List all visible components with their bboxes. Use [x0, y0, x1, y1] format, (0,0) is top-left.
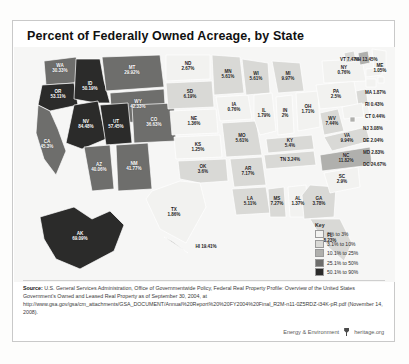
state-label-oh: OH1.71% [302, 105, 315, 114]
state-label-ak: AK69.09% [72, 232, 87, 241]
state-label-va: VA9.94% [341, 134, 354, 143]
legend-item: 25.1% to 50% [315, 259, 389, 267]
footer-brand-label[interactable]: heritage.org [354, 329, 384, 335]
state-label-nm: NM41.77% [126, 162, 141, 171]
state-value: 9.94% [341, 139, 354, 144]
state-value: 3.24% [286, 157, 300, 162]
legend-swatch [315, 268, 324, 276]
state-label-ny: NY0.76% [338, 66, 351, 75]
state-label-wa: WA30.33% [52, 64, 67, 73]
state-ct[interactable] [366, 79, 376, 87]
choropleth-map: WA30.33%OR53.11%ID50.19%MT29.92%WY42.33%… [14, 47, 395, 282]
state-label-wy: WY42.33% [130, 100, 145, 109]
state-label-ok: OK3.6% [198, 165, 208, 174]
state-value: 2.5% [331, 95, 341, 100]
legend-item: 3.1% to 10% [315, 240, 389, 248]
legend-swatch [315, 249, 324, 257]
state-label-nc: NC11.82% [338, 154, 353, 163]
state-value: 2% [282, 114, 289, 119]
state-label-mn: MN5.61% [222, 70, 235, 79]
state-value: 0.76% [338, 71, 351, 76]
state-value: 7.27% [271, 202, 284, 207]
legend-swatch [315, 230, 324, 238]
state-value: 5.61% [250, 77, 263, 82]
state-value: 9.97% [282, 77, 295, 82]
state-label-ut: UT57.45% [108, 120, 123, 129]
state-label-ri: RI 0.43% [365, 103, 384, 108]
state-label-az: AZ40.06% [91, 163, 106, 172]
state-value: 53.11% [50, 95, 65, 100]
legend-rows: 0% to 3%3.1% to 10%10.1% to 25%25.1% to … [315, 230, 389, 276]
source-note: Source: U.S. General Services Administra… [23, 284, 385, 316]
state-abbr: MA [365, 90, 372, 95]
state-label-mi: MI9.97% [282, 72, 295, 81]
state-label-ks: KS1.25% [192, 143, 205, 152]
state-value: 84.48% [78, 125, 93, 130]
state-label-co: CO36.63% [146, 118, 161, 127]
legend-item: 0% to 3% [315, 230, 389, 238]
state-label-tx: TX1.86% [168, 208, 181, 217]
state-label-il: IL1.79% [258, 109, 271, 118]
state-value: 50.19% [82, 87, 97, 92]
state-label-ca: CA45.3% [41, 140, 54, 149]
state-value: 24.67% [370, 162, 387, 167]
state-label-ky: KY5.4% [285, 139, 295, 148]
state-value: 0.44% [371, 114, 385, 119]
state-value: 2.83% [370, 150, 384, 155]
legend-heading: Key [315, 222, 389, 228]
state-label-or: OR53.11% [50, 90, 65, 99]
state-value: 29.92% [124, 71, 139, 76]
state-label-ma: MA 1.87% [365, 91, 386, 96]
state-value: 1.87% [372, 90, 386, 95]
state-dc[interactable] [350, 117, 355, 122]
state-value: 13.45% [361, 57, 378, 62]
state-value: 5.11% [244, 202, 257, 207]
source-label: Source: [23, 285, 43, 291]
state-label-ia: IA0.76% [228, 103, 241, 112]
state-abbr: MD [363, 150, 370, 155]
state-label-la: LA5.11% [244, 197, 257, 206]
state-value: 3.78% [313, 202, 326, 207]
legend-swatch [315, 259, 324, 267]
footer-brand: Energy & Environment heritage.org [283, 328, 384, 336]
state-value: 69.09% [72, 237, 87, 242]
state-label-md: MD 2.83% [363, 151, 384, 156]
state-value: 30.33% [52, 69, 67, 74]
source-divider [23, 280, 385, 281]
state-value: 7.44% [326, 122, 339, 127]
state-value: 1.25% [192, 148, 205, 153]
state-label-mo: MO5.61% [236, 134, 249, 143]
state-value: 2.67% [182, 67, 195, 72]
state-value: 5.61% [222, 75, 235, 80]
state-label-wi: WI5.61% [250, 72, 263, 81]
legend-label: 10.1% to 25% [327, 250, 358, 256]
state-value: 2.04% [369, 138, 383, 143]
state-value: 11.82% [338, 159, 353, 164]
map-legend: Key 0% to 3%3.1% to 10%10.1% to 25%25.1%… [315, 222, 389, 278]
legend-label: 50.1% to 90% [327, 269, 358, 275]
state-label-al: AL1.37% [292, 197, 305, 206]
state-value: 1.37% [292, 202, 305, 207]
state-value: 3.6% [198, 170, 208, 175]
state-label-ga: GA3.78% [313, 197, 326, 206]
state-label-nj: NJ 3.08% [363, 127, 383, 132]
legend-item: 10.1% to 25% [315, 249, 389, 257]
state-label-nv: NV84.48% [78, 120, 93, 129]
legend-label: 25.1% to 50% [327, 260, 358, 266]
state-label-mt: MT29.92% [124, 66, 139, 75]
state-value: 57.45% [108, 125, 123, 130]
heritage-shield-icon [343, 328, 350, 336]
state-value: 41.77% [126, 167, 141, 172]
state-value: 1.36% [188, 122, 201, 127]
state-value: 1.71% [302, 110, 315, 115]
state-value: 0.43% [370, 102, 384, 107]
legend-swatch [315, 240, 324, 248]
source-text: U.S. General Services Administration, Of… [23, 285, 383, 315]
state-value: 40.06% [91, 168, 106, 173]
state-label-nd: ND2.67% [182, 62, 195, 71]
state-label-me: ME1.05% [374, 64, 387, 73]
state-value: 5.61% [236, 139, 249, 144]
state-ri[interactable] [378, 77, 384, 83]
state-label-wv: WV7.44% [326, 117, 339, 126]
state-label-de: DE 2.04% [363, 139, 383, 144]
